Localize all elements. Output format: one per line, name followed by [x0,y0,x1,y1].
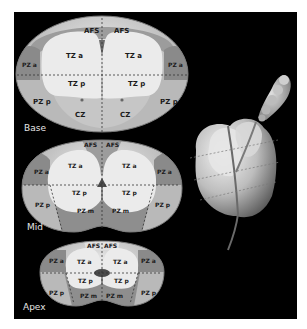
zone-label-pzp-left: PZ p [35,201,51,209]
prostate-zone-diagram: AFS AFS TZ a TZ a PZ a PZ a TZ p TZ p PZ… [0,0,307,329]
zone-label-pza-right: PZ a [168,61,183,68]
zone-label-pza-left: PZ a [49,257,64,264]
zone-label-tzp-right: TZ p [114,277,130,285]
zone-label-pzm-right: PZ m [106,292,123,299]
section-label-base: Base [24,123,46,133]
zone-label-tzp-left: TZ p [78,277,94,285]
apex-slice: AFS AFS TZ a TZ a PZ a PZ a TZ p TZ p PZ… [23,241,180,312]
zone-label-pza-left: PZ a [22,61,37,68]
zone-label-afs-right: AFS [104,242,117,249]
zone-label-pzm-right: PZ m [112,207,129,214]
zone-label-tza-left: TZ a [77,258,92,265]
zone-label-afs-left: AFS [84,141,97,148]
zone-label-pzp-left: PZ p [49,289,65,297]
base-slice: AFS AFS TZ a TZ a PZ a PZ a TZ p TZ p PZ… [14,16,194,140]
zone-label-pzp-right: PZ p [160,98,178,106]
zone-label-pzp-right: PZ p [155,201,171,209]
zone-label-pzm-left: PZ m [80,292,97,299]
zone-label-pza-right: PZ a [157,168,172,175]
zone-label-pzp-right: PZ p [141,289,157,297]
zone-label-pzm-left: PZ m [77,207,94,214]
mid-slice: AFS AFS TZ a TZ a PZ a PZ a TZ p TZ p PZ… [14,140,194,235]
zone-label-tza-left: TZ a [68,162,83,169]
zone-label-tzp-right: TZ p [128,80,145,88]
zone-label-tzp-left: TZ p [68,80,85,88]
zone-label-tzp-left: TZ p [72,189,88,197]
zone-label-tza-right: TZ a [113,258,128,265]
zone-label-tza-left: TZ a [66,52,83,60]
zone-label-afs-right: AFS [106,141,119,148]
zone-label-pza-left: PZ a [34,168,49,175]
zone-label-tza-right: TZ a [125,52,142,60]
zone-label-cz-left: CZ [75,111,85,119]
section-label-mid: Mid [27,222,43,232]
section-label-apex: Apex [23,302,46,312]
zone-label-afs-left: AFS [84,27,99,35]
zone-label-pzp-left: PZ p [33,98,51,106]
prostate-3d-illustration [190,75,291,250]
zone-label-tza-right: TZ a [122,162,137,169]
zone-label-afs-left: AFS [87,242,100,249]
zone-label-pza-right: PZ a [141,257,156,264]
zone-label-afs-right: AFS [114,27,129,35]
zone-label-cz-right: CZ [120,111,130,119]
zone-label-tzp-right: TZ p [122,189,138,197]
seminal-vesicle-icon [258,75,291,122]
